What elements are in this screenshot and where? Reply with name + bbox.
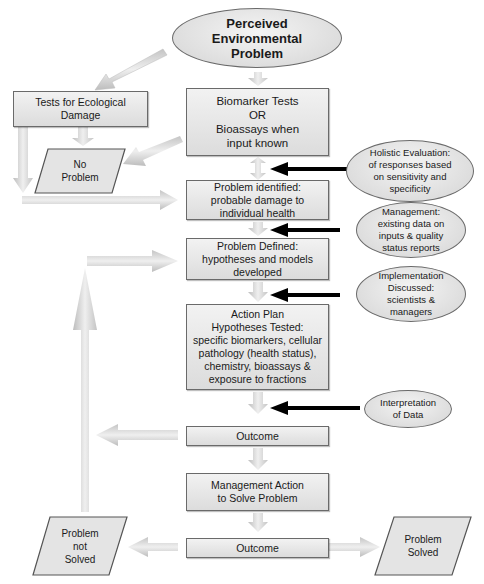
node-line: Solved [408, 546, 439, 559]
node-line: Bioassays when [216, 122, 299, 136]
input-arrow-implementation [270, 288, 340, 302]
node-line: of responses based [369, 159, 452, 171]
outcome-node: Outcome [186, 426, 329, 446]
node-line: scientists & [387, 294, 435, 306]
arrow-biomarker-to-no-problem [123, 136, 183, 166]
arrow-biomarker-problem-identified [250, 157, 266, 180]
arrow-identified-to-defined [248, 222, 268, 236]
arrow-ecological-down [13, 127, 33, 193]
node-line: Action Plan [231, 308, 284, 321]
arrow-outcome-to-not-solved [128, 537, 178, 557]
node-line: of Data [393, 409, 424, 421]
input-arrow-interpretation [270, 401, 360, 415]
arrow-outcome-to-solved [328, 537, 380, 557]
arrow-outcome-to-management [248, 448, 268, 470]
node-line: Problem Defined: [217, 240, 298, 253]
node-line: Management Action [211, 479, 304, 492]
no-problem-node: No Problem [34, 148, 126, 194]
arrow-start-to-biomarker [248, 72, 268, 86]
node-line: exposure to fractions [209, 373, 306, 386]
interpretation-input: Interpretation of Data [364, 390, 452, 428]
node-line: Outcome [236, 430, 279, 443]
node-line: chemistry, bioassays & [204, 360, 311, 373]
node-line: specific biomarkers, cellular [193, 334, 322, 347]
node-line: individual health [220, 207, 295, 220]
node-line: No [74, 158, 87, 171]
node-line: Interpretation [380, 397, 436, 409]
node-line: inputs & quality [379, 230, 443, 242]
node-line: specificity [389, 183, 430, 195]
node-line: Problem [404, 533, 441, 546]
input-arrow-holistic [270, 162, 358, 176]
node-line: on sensitivity and [374, 171, 447, 183]
arrow-feedback-to-defined [87, 250, 178, 272]
node-line: not [73, 540, 87, 553]
node-line: Damage [61, 109, 101, 122]
action-plan-node: Action Plan Hypotheses Tested: specific … [186, 304, 329, 390]
arrow-management-to-outcome [248, 513, 268, 532]
arrow-action-to-outcome [248, 392, 268, 414]
ecological-damage-tests-node: Tests for Ecological Damage [13, 91, 148, 127]
node-line: existing data on [378, 218, 445, 230]
arrow-ecological-to-no-problem [72, 127, 94, 146]
node-line: developed [233, 266, 281, 279]
management-data-input: Management: existing data on inputs & qu… [356, 202, 466, 258]
final-outcome-node: Outcome [186, 538, 329, 558]
node-line: Hypotheses Tested: [211, 321, 303, 334]
node-line: Outcome [236, 542, 279, 555]
perceived-environmental-problem-node: Perceived Environmental Problem [172, 8, 342, 68]
node-line: Problem identified: [214, 181, 301, 194]
management-action-node: Management Action to Solve Problem [186, 473, 329, 511]
problem-solved-node: Problem Solved [374, 516, 472, 576]
arrow-start-to-ecological-tests [95, 49, 167, 90]
node-line: Tests for Ecological [35, 96, 125, 109]
node-line: Problem [61, 171, 98, 184]
node-line: OR [249, 108, 266, 122]
problem-not-solved-node: Problem not Solved [32, 516, 128, 576]
node-line: Holistic Evaluation: [370, 147, 450, 159]
node-line: Environmental [212, 31, 302, 46]
node-line: Problem [231, 46, 283, 61]
node-line: Management: [382, 206, 440, 218]
node-line: Discussed: [388, 282, 434, 294]
biomarker-tests-node: Biomarker Tests OR Bioassays when input … [186, 88, 329, 156]
node-line: to Solve Problem [218, 492, 298, 505]
node-line: status reports [382, 242, 440, 254]
node-line: probable damage to [211, 194, 304, 207]
node-line: Biomarker Tests [216, 94, 298, 108]
node-line: Implementation [379, 270, 444, 282]
node-line: Problem [61, 527, 98, 540]
node-line: Perceived [226, 16, 287, 31]
holistic-evaluation-input: Holistic Evaluation: of responses based … [346, 140, 474, 202]
arrow-feedback-up [73, 268, 97, 512]
node-line: hypotheses and models [202, 253, 313, 266]
node-line: pathology (health status), [199, 347, 317, 360]
arrow-defined-to-action [248, 282, 268, 302]
node-line: input known [227, 136, 288, 150]
arrow-outcome-left [96, 424, 178, 446]
problem-defined-node: Problem Defined: hypotheses and models d… [186, 238, 329, 280]
node-line: managers [390, 306, 432, 318]
input-arrow-management [270, 223, 340, 237]
node-line: Solved [65, 553, 96, 566]
problem-identified-node: Problem identified: probable damage to i… [186, 180, 329, 220]
implementation-input: Implementation Discussed: scientists & m… [356, 266, 466, 322]
